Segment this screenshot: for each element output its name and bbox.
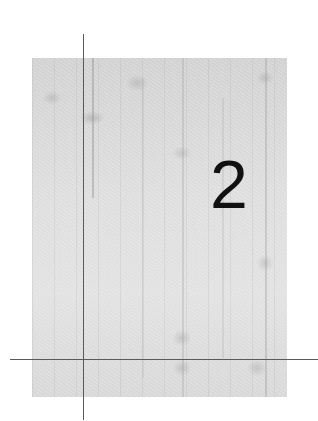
horizontal-crop-line (10, 359, 318, 360)
neurite (182, 58, 184, 397)
neuron-illustration-plate (32, 58, 287, 397)
neurite (265, 58, 267, 397)
neurite (92, 58, 94, 198)
neurite (142, 78, 144, 378)
vertical-crop-line (83, 34, 84, 420)
chapter-number: 2 (210, 150, 248, 218)
neurite (222, 98, 224, 358)
